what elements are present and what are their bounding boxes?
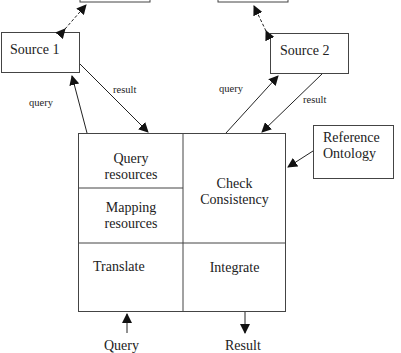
source1-label: Source 1 [10,42,59,58]
ontology-arrow [288,151,313,167]
reference-ontology-line2: Ontology [323,146,380,162]
mapping-resources-label: Mapping resources [79,200,183,232]
query-resources-label: Query resources [79,151,183,183]
source2-label: Source 2 [280,43,329,59]
query-input-label: Query [104,338,139,353]
check-consistency-label: Check Consistency [183,176,286,208]
source2-query-label: query [219,83,243,95]
query-resources-line1: Query [79,151,183,167]
source1-result-label: result [113,84,136,96]
source1-query-arrow [72,76,87,133]
integrate-label: Integrate [183,260,286,276]
translate-label: Translate [93,259,145,275]
query-resources-line2: resources [79,167,183,183]
dashed-arrow-right [254,6,266,31]
dashed-arrow-left [65,5,86,29]
mapping-resources-line1: Mapping [79,200,183,216]
reference-ontology-label: Reference Ontology [323,130,380,162]
reference-ontology-line1: Reference [323,130,380,146]
top-left-box [80,0,150,2]
source2-result-label: result [303,94,326,106]
source1-query-label: query [29,97,53,109]
check-consistency-line1: Check [183,176,286,192]
source1-result-arrow [80,64,148,132]
check-consistency-line2: Consistency [183,192,286,208]
top-right-box [218,0,288,2]
mapping-resources-line2: resources [79,216,183,232]
result-output-label: Result [225,338,261,353]
